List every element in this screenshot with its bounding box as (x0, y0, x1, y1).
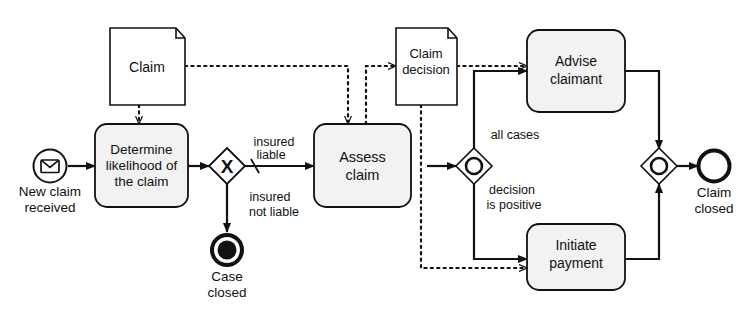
task-advise-claimant[interactable]: Advise claimant (527, 30, 625, 112)
envelope-icon (41, 160, 59, 173)
task-determine-likelihood-label-line3: the claim (114, 174, 168, 189)
end-event-claim-closed-label-line2: closed (694, 201, 733, 216)
flow-label-insured-not-liable-line2: not liable (249, 205, 299, 219)
task-advise-claimant-label-line2: claimant (550, 71, 602, 87)
task-assess-claim-label-line1: Assess (339, 149, 386, 165)
task-determine-likelihood-label-line2: likelihood of (106, 158, 178, 173)
end-event-case-closed-label-line2: closed (207, 285, 246, 300)
end-event-case-closed-label-line1: Case (211, 269, 243, 284)
flow-initiate-to-or-merge (625, 184, 659, 259)
flow-label-insured-liable-line2: liable (256, 148, 285, 162)
end-event-case-closed-terminate-dot (218, 241, 237, 260)
data-object-claim-decision-label-line2: decision (402, 62, 450, 77)
task-initiate-payment-label-line1: Initiate (555, 237, 596, 253)
task-assess-claim-label-line2: claim (346, 167, 380, 183)
start-event-label-line2: received (24, 200, 75, 215)
assoc-assess-to-claim-decision (366, 66, 396, 124)
task-initiate-payment[interactable]: Initiate payment (527, 224, 625, 290)
gateway-or-merge-diamond (641, 148, 677, 184)
flow-label-insured-liable-line1: insured (254, 135, 295, 149)
assoc-claim-to-assess (185, 66, 348, 124)
bpmn-diagram-canvas: Claim Claim decision New claim received … (0, 0, 746, 319)
data-object-claim[interactable]: Claim (110, 28, 185, 105)
flow-label-decision-positive-line2: is positive (487, 198, 542, 212)
end-event-claim-closed[interactable]: Claim closed (694, 151, 733, 217)
flow-advise-to-or-merge (625, 71, 659, 149)
task-determine-likelihood[interactable]: Determine likelihood of the claim (95, 124, 188, 207)
data-object-claim-decision[interactable]: Claim decision (396, 28, 457, 105)
end-event-claim-closed-label-line1: Claim (697, 185, 732, 200)
task-assess-claim-box (314, 124, 411, 207)
task-initiate-payment-label-line2: payment (549, 255, 603, 271)
gateway-liability-xor-marker: X (221, 156, 234, 177)
flow-label-all-cases: all cases (491, 128, 540, 142)
gateway-or-split[interactable] (456, 148, 492, 184)
start-event-label-line1: New claim (19, 184, 81, 199)
task-assess-claim[interactable]: Assess claim (314, 124, 411, 207)
start-event-new-claim-received[interactable]: New claim received (19, 150, 81, 216)
end-event-case-closed[interactable]: Case closed (207, 235, 246, 300)
flow-label-insured-not-liable-line1: insured (250, 190, 291, 204)
task-advise-claimant-label-line1: Advise (555, 53, 597, 69)
data-object-claim-decision-label-line1: Claim (409, 46, 442, 61)
task-determine-likelihood-label-line1: Determine (110, 142, 172, 157)
gateway-or-split-diamond (456, 148, 492, 184)
flow-label-decision-positive-line1: decision (489, 183, 535, 197)
data-object-claim-label: Claim (129, 59, 165, 75)
gateway-liability-xor[interactable]: X (209, 148, 245, 184)
bpmn-diagram-svg: Claim Claim decision New claim received … (0, 0, 746, 319)
gateway-or-merge[interactable] (641, 148, 677, 184)
end-event-claim-closed-ring (699, 151, 730, 182)
